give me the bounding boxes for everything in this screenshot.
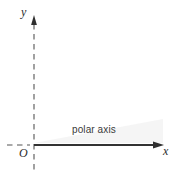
origin-label: O: [19, 147, 28, 159]
y-axis-label: y: [21, 6, 26, 18]
polar-axis-label: polar axis: [72, 125, 116, 135]
y-axis-arrowhead-icon: [31, 15, 37, 25]
polar-axis-figure: y x O polar axis: [0, 0, 180, 173]
x-axis-label: x: [163, 145, 168, 157]
